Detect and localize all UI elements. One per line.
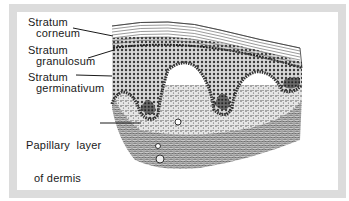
label-stratum-corneum: Stratum corneum (28, 17, 80, 39)
label-stratum-germinativum: Stratum germinativum (28, 72, 104, 94)
vessel (156, 144, 161, 149)
label-stratum-granulosum: Stratum granulosum (28, 45, 95, 67)
vessel (175, 119, 181, 125)
vessel (156, 155, 164, 163)
label-papillary-layer: Papillary layer of dermis (26, 118, 101, 195)
